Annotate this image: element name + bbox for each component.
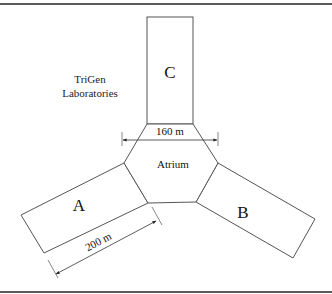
atrium-width-label: 160 m <box>156 125 184 137</box>
title-line-2: Laboratories <box>62 87 118 99</box>
atrium-label: Atrium <box>157 158 189 170</box>
title-line-1: TriGen <box>74 73 106 85</box>
building-c-label: C <box>164 63 175 82</box>
building-a-length-label: 200 m <box>83 229 114 253</box>
site-diagram: C A B Atrium 160 m 200 m TriGen Laborato… <box>0 0 332 294</box>
diagram-title: TriGen Laboratories <box>62 73 118 99</box>
building-b-label: B <box>237 203 248 222</box>
building-a-label: A <box>73 196 86 215</box>
building-a: A <box>21 163 148 253</box>
building-b: B <box>196 163 315 258</box>
building-c: C <box>147 17 193 124</box>
